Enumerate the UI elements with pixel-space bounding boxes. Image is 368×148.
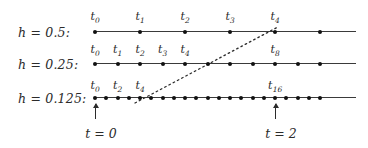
tick-label: t8 <box>270 43 279 56</box>
tick-label: t3 <box>225 10 234 23</box>
tick-index: 3 <box>163 49 168 58</box>
tick-symbol: t <box>225 10 229 23</box>
grid-point <box>138 30 142 34</box>
grid-point <box>273 96 277 100</box>
marker-t0-label: t = 0 <box>85 126 116 141</box>
tick-index: 1 <box>118 49 123 58</box>
grid-point <box>318 62 322 66</box>
tick-index: 4 <box>140 85 145 94</box>
tick-index: 2 <box>185 16 190 25</box>
tick-label: t2 <box>113 79 122 92</box>
grid-point <box>273 62 277 66</box>
grid-point <box>228 96 232 100</box>
tick-symbol: t <box>113 43 117 56</box>
figure-canvas: h = 0.5:t0t1t2t3t4h = 0.25:t0t1t2t3t4t8h… <box>0 0 368 148</box>
grid-point <box>183 30 187 34</box>
grid-point <box>217 96 221 100</box>
tick-label: t2 <box>135 43 144 56</box>
tick-label: t4 <box>270 10 279 23</box>
grid-point <box>251 96 255 100</box>
tick-symbol: t <box>90 79 94 92</box>
marker-t2-arrow-head-icon <box>273 103 279 108</box>
tick-index: 2 <box>140 49 145 58</box>
grid-point <box>262 96 266 100</box>
tick-label: t1 <box>113 43 122 56</box>
tick-index: 4 <box>185 49 190 58</box>
tick-label: t1 <box>135 10 144 23</box>
grid-point <box>183 62 187 66</box>
marker-t0-arrow-head-icon <box>93 103 99 108</box>
grid-point <box>161 62 165 66</box>
grid-point <box>93 62 97 66</box>
step-size-label-row-h-0p125: h = 0.125: <box>18 91 86 106</box>
marker-t2-label: t = 2 <box>265 126 296 141</box>
tick-symbol: t <box>268 79 272 92</box>
tick-label: t0 <box>90 43 99 56</box>
grid-point <box>127 96 131 100</box>
grid-point <box>194 96 198 100</box>
tick-symbol: t <box>135 43 139 56</box>
time-axis-row-h-0p5 <box>95 31 356 32</box>
grid-point <box>183 96 187 100</box>
grid-point <box>318 30 322 34</box>
grid-point <box>138 96 142 100</box>
grid-point <box>284 96 288 100</box>
grid-point <box>307 96 311 100</box>
grid-point <box>251 62 255 66</box>
tick-index: 0 <box>95 49 100 58</box>
tick-symbol: t <box>270 10 274 23</box>
grid-point <box>104 96 108 100</box>
grid-point <box>239 96 243 100</box>
grid-point <box>273 30 277 34</box>
grid-point <box>318 96 322 100</box>
tick-index: 16 <box>273 85 283 94</box>
tick-index: 8 <box>275 49 280 58</box>
grid-point <box>93 30 97 34</box>
tick-symbol: t <box>158 43 162 56</box>
tick-label: t4 <box>180 43 189 56</box>
tick-label: t2 <box>180 10 189 23</box>
time-axis-row-h-0p125 <box>95 97 356 98</box>
time-axis-row-h-0p25 <box>95 63 356 64</box>
tick-symbol: t <box>180 43 184 56</box>
tick-symbol: t <box>180 10 184 23</box>
tick-symbol: t <box>135 79 139 92</box>
tick-index: 0 <box>95 16 100 25</box>
tick-index: 1 <box>140 16 145 25</box>
grid-point <box>116 96 120 100</box>
grid-point <box>206 62 210 66</box>
tick-symbol: t <box>270 43 274 56</box>
tick-label: t0 <box>90 10 99 23</box>
tick-index: 4 <box>275 16 280 25</box>
tick-index: 0 <box>95 85 100 94</box>
grid-point <box>149 96 153 100</box>
grid-point <box>296 96 300 100</box>
tick-label: t16 <box>268 79 282 92</box>
step-size-label-row-h-0p25: h = 0.25: <box>18 57 78 72</box>
tick-index: 3 <box>230 16 235 25</box>
grid-point <box>138 62 142 66</box>
tick-symbol: t <box>113 79 117 92</box>
tick-symbol: t <box>90 10 94 23</box>
grid-point <box>206 96 210 100</box>
step-size-label-row-h-0p5: h = 0.5: <box>18 25 70 40</box>
tick-label: t4 <box>135 79 144 92</box>
tick-index: 2 <box>118 85 123 94</box>
grid-point <box>172 96 176 100</box>
tick-label: t3 <box>158 43 167 56</box>
grid-point <box>296 62 300 66</box>
tick-symbol: t <box>90 43 94 56</box>
grid-point <box>228 30 232 34</box>
grid-point <box>93 96 97 100</box>
grid-point <box>161 96 165 100</box>
grid-point <box>228 62 232 66</box>
tick-symbol: t <box>135 10 139 23</box>
tick-label: t0 <box>90 79 99 92</box>
grid-point <box>116 62 120 66</box>
